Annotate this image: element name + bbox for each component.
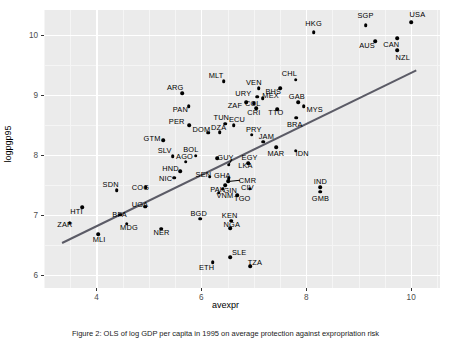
x-axis-tick: [306, 288, 307, 291]
data-point-label: LKA: [238, 160, 252, 169]
plot-panel: HKGSGPUSAAUSCANNZLMLTCHLBHSVENARGURYMEXG…: [44, 10, 440, 288]
major-gridline-vertical: [96, 10, 97, 288]
data-point-label: AUS: [359, 40, 375, 49]
data-point[interactable]: [222, 80, 226, 84]
minor-gridline-vertical: [70, 10, 71, 288]
data-point-label: MYS: [306, 105, 322, 114]
data-point-label: CIV: [241, 182, 254, 191]
data-point[interactable]: [261, 140, 265, 144]
data-point-label: USA: [410, 10, 426, 18]
data-point-label: ZAF: [228, 100, 242, 109]
data-point[interactable]: [297, 100, 301, 104]
minor-gridline-vertical: [123, 10, 124, 288]
data-point-label: KEN: [222, 210, 238, 219]
figure-caption: Figure 2: OLS of log GDP per capita in 1…: [0, 329, 451, 338]
data-point[interactable]: [115, 189, 119, 193]
data-point[interactable]: [250, 133, 254, 137]
minor-gridline-vertical: [437, 10, 438, 288]
minor-gridline-vertical: [332, 10, 333, 288]
y-axis-tick: [41, 215, 44, 216]
data-point-label: SLE: [232, 248, 246, 257]
data-point[interactable]: [194, 154, 198, 158]
data-point-label: TTO: [268, 108, 283, 117]
data-point[interactable]: [319, 186, 323, 190]
data-point-label: DZA: [211, 123, 226, 132]
minor-gridline-vertical: [44, 10, 45, 288]
x-axis-tick: [411, 288, 412, 291]
data-point-label: HTI: [70, 207, 82, 216]
data-point[interactable]: [161, 138, 165, 142]
data-point[interactable]: [232, 123, 236, 127]
data-point-label: IND: [314, 177, 327, 186]
data-point-label: GHA: [214, 171, 230, 180]
data-point-label: MEX: [262, 91, 278, 100]
data-point[interactable]: [227, 163, 231, 167]
y-axis-label: logpgp95: [2, 0, 14, 288]
data-point-label: ECU: [229, 115, 245, 124]
x-axis-tick: [201, 288, 202, 291]
minor-gridline-vertical: [359, 10, 360, 288]
data-point-label: VEN: [246, 78, 262, 87]
x-axis-tick-label: 10: [407, 293, 416, 302]
major-gridline-vertical: [201, 10, 202, 288]
data-point-label: DOM: [192, 125, 210, 134]
data-point-label: SDN: [103, 179, 119, 188]
data-point[interactable]: [364, 23, 368, 27]
minor-gridline-horizontal: [44, 245, 440, 246]
x-axis-label: avexpr: [0, 300, 451, 310]
data-point-label: BFA: [112, 210, 126, 219]
data-point-label: COG: [132, 182, 149, 191]
major-gridline-horizontal: [44, 215, 440, 216]
data-point-label: JAM: [259, 131, 274, 140]
data-point-label: HND: [162, 164, 178, 173]
data-point[interactable]: [187, 123, 191, 127]
y-axis-tick: [41, 35, 44, 36]
minor-gridline-vertical: [228, 10, 229, 288]
data-point-label: MDG: [120, 222, 138, 231]
data-point[interactable]: [184, 160, 188, 164]
major-gridline-horizontal: [44, 275, 440, 276]
data-point-label: TZA: [248, 257, 262, 266]
minor-gridline-horizontal: [44, 65, 440, 66]
data-point[interactable]: [294, 78, 298, 82]
data-point-label: NER: [153, 227, 169, 236]
data-point[interactable]: [312, 30, 316, 34]
data-point-label: ETH: [199, 263, 214, 272]
data-point-label: SGP: [357, 11, 373, 20]
data-point-label: ARG: [167, 82, 183, 91]
data-point-label: COL: [245, 98, 261, 107]
data-point-label: CRI: [247, 107, 260, 116]
data-point-label: GAB: [289, 91, 305, 100]
data-point-label: IDN: [295, 148, 308, 157]
data-point[interactable]: [302, 105, 306, 109]
data-point[interactable]: [172, 176, 176, 180]
data-point-label: GUY: [217, 153, 233, 162]
data-point-label: MLT: [209, 70, 224, 79]
y-axis-tick-label: 9: [33, 91, 38, 100]
y-axis-tick-label: 8: [33, 150, 38, 159]
minor-gridline-vertical: [385, 10, 386, 288]
major-gridline-horizontal: [44, 35, 440, 36]
minor-gridline-vertical: [175, 10, 176, 288]
data-point-label: PAN: [173, 105, 188, 114]
data-point-label: NIC: [159, 173, 172, 182]
data-point-label: PER: [169, 117, 185, 126]
data-point-label: TGO: [234, 193, 250, 202]
data-point-label: CAN: [383, 39, 399, 48]
data-point-label: BGD: [190, 209, 206, 218]
major-gridline-vertical: [411, 10, 412, 288]
data-point-label: CHL: [282, 68, 297, 77]
data-point-label: GMB: [312, 193, 329, 202]
data-point[interactable]: [257, 87, 261, 91]
data-point-label: URY: [235, 89, 251, 98]
data-point[interactable]: [171, 154, 175, 158]
x-axis-tick: [96, 288, 97, 291]
data-point-label: VNM: [217, 191, 234, 200]
y-axis-tick-label: 7: [33, 210, 38, 219]
data-point[interactable]: [179, 169, 183, 173]
data-point[interactable]: [181, 91, 185, 95]
y-axis-tick: [41, 275, 44, 276]
data-point[interactable]: [409, 20, 413, 24]
y-axis-tick: [41, 155, 44, 156]
